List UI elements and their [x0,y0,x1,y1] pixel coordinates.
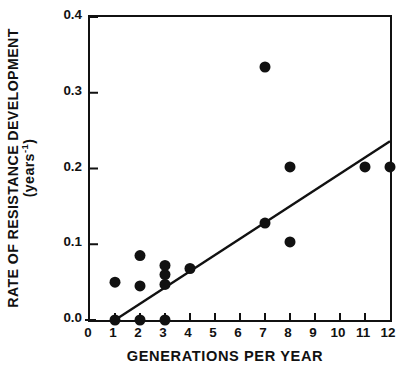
y-axis-units-prefix: (years [21,153,37,197]
x-axis-tick-label: 11 [350,325,376,340]
x-axis-tick-label: 0 [75,325,101,340]
y-axis-units-suffix: ) [21,139,37,144]
y-axis-tick-label: 0.2 [63,159,82,174]
data-point [360,161,371,172]
y-axis-tick-label: 0.4 [63,7,82,22]
data-point [185,263,196,274]
data-point [135,315,146,326]
x-axis-tick-label: 2 [125,325,151,340]
data-point [160,315,171,326]
x-axis-title: GENERATIONS PER YEAR [60,348,390,364]
data-point [160,269,171,280]
data-point [260,61,271,72]
x-axis-tick-label: 3 [150,325,176,340]
data-point [110,277,121,288]
y-axis-tick-label: 0.1 [63,234,82,249]
data-point [110,315,121,326]
y-axis-tick-label: 0.3 [63,83,82,98]
scatter-plot-figure: RATE OF RESISTANCE DEVELOPMENT (years-1)… [0,0,407,375]
x-axis-tick-label: 12 [375,325,401,340]
y-axis-title-line1: RATE OF RESISTANCE DEVELOPMENT [6,0,21,336]
x-axis-tick-label: 9 [300,325,326,340]
y-axis-tick-label: 0.0 [63,310,82,325]
data-point [135,280,146,291]
regression-trendline [115,141,390,320]
x-axis-tick-label: 4 [175,325,201,340]
x-axis-tick-labels: 0123456789101112 [0,325,407,347]
x-axis-tick-label: 1 [100,325,126,340]
data-point [135,250,146,261]
x-axis-tick-label: 10 [325,325,351,340]
data-point [260,218,271,229]
x-axis-tick-label: 6 [225,325,251,340]
x-axis-tick-label: 7 [250,325,276,340]
y-axis-tick-labels: 0.00.10.20.30.4 [50,0,82,340]
x-axis-tick-label: 8 [275,325,301,340]
x-axis-tick-label: 5 [200,325,226,340]
y-axis-units-exponent: -1 [19,144,30,153]
plot-area [88,15,392,322]
data-point [285,236,296,247]
plot-canvas [90,17,390,320]
data-point [285,161,296,172]
data-point [160,279,171,290]
y-axis-title-line2: (years-1) [22,0,37,336]
data-point [385,161,396,172]
